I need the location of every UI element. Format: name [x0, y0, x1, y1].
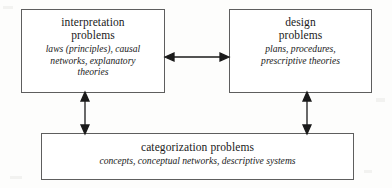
box-interpretation-subtitle-line-2: networks, explanatory — [46, 55, 141, 67]
box-interpretation-title-line-2: problems — [71, 29, 115, 42]
box-design-subtitle-line-2: prescriptive theories — [261, 55, 340, 67]
box-interpretation-subtitle: laws (principles), causal networks, expl… — [46, 43, 141, 78]
arrow-design-categorization — [303, 92, 311, 134]
box-categorization-title-line-1: categorization problems — [141, 141, 254, 154]
scan-artifact — [3, 6, 13, 9]
box-design-title-line-1: design — [285, 16, 316, 29]
box-design-problems: design problems plans, procedures, presc… — [229, 9, 372, 93]
diagram-canvas: interpretation problems laws (principles… — [0, 0, 392, 188]
box-categorization-problems: categorization problems concepts, concep… — [41, 133, 354, 180]
arrow-interpretation-categorization — [81, 92, 89, 134]
box-interpretation-subtitle-line-3: theories — [46, 66, 141, 78]
box-interpretation-title-line-1: interpretation — [61, 16, 124, 29]
box-categorization-subtitle-line-1: concepts, conceptual networks, descripti… — [99, 155, 295, 167]
box-interpretation-subtitle-line-1: laws (principles), causal — [46, 43, 141, 55]
box-interpretation-problems: interpretation problems laws (principles… — [21, 9, 165, 93]
box-design-subtitle: plans, procedures, prescriptive theories — [261, 43, 340, 66]
box-design-title-line-2: problems — [279, 29, 323, 42]
box-categorization-subtitle: concepts, conceptual networks, descripti… — [99, 155, 295, 167]
arrow-interpretation-design — [165, 53, 229, 61]
scan-artifact — [364, 170, 372, 173]
box-design-subtitle-line-1: plans, procedures, — [261, 43, 340, 55]
scan-artifact — [376, 98, 385, 102]
scan-artifact — [10, 176, 22, 179]
